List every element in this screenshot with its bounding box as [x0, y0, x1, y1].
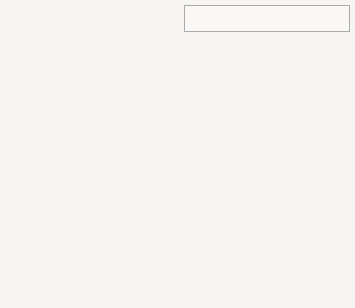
legend-item-germany [300, 10, 324, 20]
chart-canvas [0, 0, 355, 308]
line-chart [0, 0, 355, 308]
france-line-swatch [192, 25, 212, 27]
japan-line-swatch [192, 14, 212, 16]
legend-item-uk [240, 21, 264, 31]
uk-line-swatch [240, 25, 260, 27]
legend-item-japan [192, 10, 216, 20]
usa-line-swatch [240, 14, 260, 16]
legend-item-usa [240, 10, 264, 20]
germany-line-swatch [300, 14, 320, 16]
legend-item-france [192, 21, 216, 31]
legend [184, 5, 350, 32]
